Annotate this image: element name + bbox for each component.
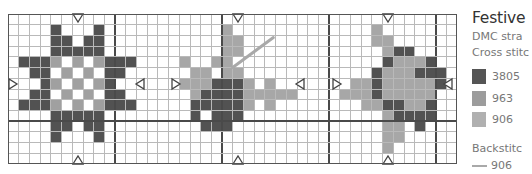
stitch-963 [72,78,83,89]
stitch-963 [51,100,62,111]
stitch-906 [404,68,415,79]
stitch-3805 [51,25,62,36]
stitch-963 [62,68,73,79]
stitch-906 [404,89,415,100]
thread-code: 906 [492,113,513,126]
stitch-906 [222,35,233,46]
stitch-3805 [372,89,383,100]
stitch-3805 [233,78,244,89]
grid-line-horizontal [8,99,457,100]
thread-code: 963 [492,92,513,105]
stitch-906 [286,89,297,100]
stitch-906 [415,57,426,68]
stitch-906 [254,89,265,100]
stitch-3805 [383,57,394,68]
stitch-3805 [201,100,212,111]
stitch-906 [404,78,415,89]
stitch-906 [383,89,394,100]
stitch-906 [350,78,361,89]
center-marker-top-icon [382,12,394,24]
stitch-906 [415,100,426,111]
stitch-963 [72,57,83,68]
stitch-3805 [29,100,40,111]
stitch-906 [243,100,254,111]
legend-stitch-type: Cross stitc [472,46,529,59]
stitch-3805 [51,35,62,46]
stitch-906 [383,68,394,79]
stitch-906 [383,142,394,153]
stitch-3805 [126,100,137,111]
backstitch-line-swatch [472,165,487,167]
stitch-906 [265,78,276,89]
stitch-906 [190,78,201,89]
stitch-906 [415,78,426,89]
stitch-3805 [415,68,426,79]
stitch-3805 [19,57,30,68]
center-marker-bottom-icon [382,154,394,166]
stitch-3805 [201,121,212,132]
stitch-3805 [94,35,105,46]
stitch-906 [233,35,244,46]
legend-thread-brand: DMC stra [472,30,522,43]
thread-code: 3805 [492,70,520,83]
stitch-3805 [393,46,404,57]
stitch-3805 [222,78,233,89]
stitch-906 [393,57,404,68]
stitch-3805 [94,121,105,132]
stitch-906 [222,57,233,68]
stitch-906 [372,25,383,36]
stitch-3805 [62,121,73,132]
stitch-3805 [372,78,383,89]
stitch-906 [361,89,372,100]
cross-stitch-pattern-grid [8,14,457,164]
grid-line-horizontal [8,142,457,143]
stitch-906 [233,46,244,57]
stitch-3805 [393,100,404,111]
center-marker-top-icon [72,12,84,24]
stitch-906 [404,57,415,68]
stitch-906 [383,132,394,143]
stitch-906 [350,89,361,100]
stitch-3805 [40,78,51,89]
stitch-3805 [83,121,94,132]
stitch-3805 [51,121,62,132]
stitch-3805 [40,100,51,111]
stitch-906 [179,57,190,68]
center-marker-left-pointing-icon [294,78,306,90]
stitch-906 [383,121,394,132]
stitch-906 [372,35,383,46]
stitch-3805 [115,89,126,100]
stitch-3805 [19,100,30,111]
grid-line-horizontal [8,131,457,132]
stitch-963 [72,100,83,111]
stitch-963 [94,100,105,111]
stitch-906 [276,89,287,100]
stitch-3805 [201,89,212,100]
grid-line-horizontal [8,89,457,90]
stitch-3805 [62,46,73,57]
stitch-3805 [40,68,51,79]
stitch-906 [222,25,233,36]
stitch-3805 [40,89,51,100]
stitch-906 [201,68,212,79]
stitch-906 [383,78,394,89]
stitch-963 [51,57,62,68]
stitch-963 [94,57,105,68]
stitch-906 [393,68,404,79]
stitch-3805 [190,100,201,111]
stitch-906 [393,78,404,89]
grid-line-horizontal [8,120,457,121]
stitch-3805 [115,100,126,111]
stitch-3805 [222,100,233,111]
stitch-3805 [29,57,40,68]
stitch-906 [222,68,233,79]
stitch-906 [340,89,351,100]
stitch-906 [415,89,426,100]
grid-line-horizontal [8,56,457,57]
stitch-906 [243,89,254,100]
stitch-963 [83,68,94,79]
center-marker-top-icon [232,12,244,24]
center-marker-bottom-icon [232,154,244,166]
stitch-3805 [94,132,105,143]
stitch-3805 [404,46,415,57]
